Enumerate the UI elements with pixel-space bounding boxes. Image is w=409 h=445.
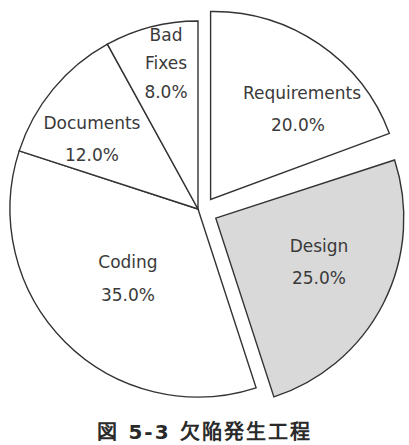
label-documents-name: Documents bbox=[44, 113, 141, 133]
label-requirements-value: 20.0% bbox=[271, 115, 325, 135]
label-coding-value: 35.0% bbox=[101, 285, 155, 305]
label-coding-name: Coding bbox=[98, 252, 157, 272]
label-bad-fixes-name2: Fixes bbox=[145, 53, 187, 73]
label-bad-fixes-name: Bad bbox=[150, 25, 183, 45]
label-documents-value: 12.0% bbox=[65, 145, 119, 165]
label-requirements-name: Requirements bbox=[243, 83, 361, 103]
label-bad-fixes-value: 8.0% bbox=[144, 82, 187, 102]
figure-caption: 図 5-3 欠陥発生工程 bbox=[0, 416, 409, 445]
label-design-name: Design bbox=[290, 236, 349, 256]
label-design-value: 25.0% bbox=[292, 268, 346, 288]
